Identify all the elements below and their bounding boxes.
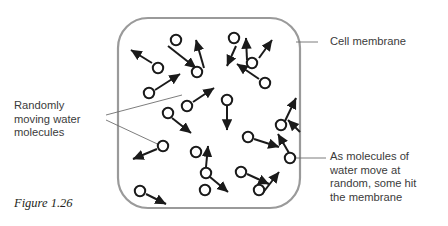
water-molecule-14 (200, 185, 210, 195)
water-molecule-10 (276, 120, 286, 130)
water-molecule-12 (158, 141, 168, 151)
water-molecule-4 (247, 58, 257, 68)
water-molecule-9 (222, 95, 232, 105)
water-molecule-16 (254, 185, 264, 195)
water-molecule-7 (182, 101, 192, 111)
water-molecule-6 (144, 88, 154, 98)
water-molecule-17 (135, 186, 145, 196)
water-molecule-0 (171, 35, 181, 45)
water-molecule-8 (163, 108, 173, 118)
label-cell-membrane: Cell membrane (330, 35, 406, 49)
figure-caption: Figure 1.26 (14, 196, 73, 211)
water-molecule-3 (192, 67, 202, 77)
water-molecule-19 (191, 147, 201, 157)
motion-arrow-5 (246, 38, 247, 60)
water-molecule-5 (260, 78, 270, 88)
water-molecule-18 (285, 153, 295, 163)
water-molecule-2 (153, 63, 163, 73)
water-molecule-15 (236, 167, 246, 177)
water-molecule-13 (201, 168, 211, 178)
figure-container: Randomly moving water molecules Cell mem… (0, 0, 448, 226)
water-molecule-11 (243, 132, 253, 142)
label-molecules-hit-membrane: As molecules of water move at random, so… (330, 150, 416, 204)
water-molecule-1 (229, 33, 239, 43)
label-randomly-moving-water-molecules: Randomly moving water molecules (14, 99, 81, 140)
